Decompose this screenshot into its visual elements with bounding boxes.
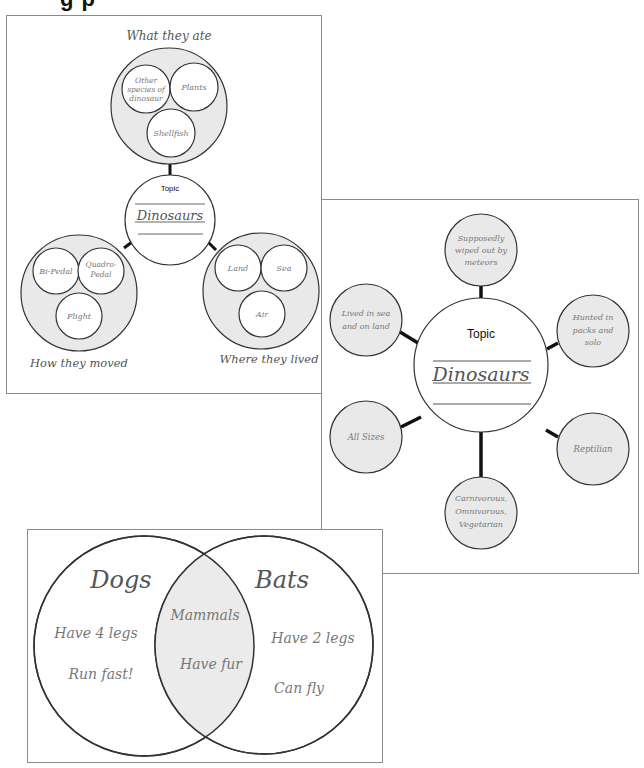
venn-overlap-item: Have fur — [179, 656, 243, 672]
venn-left-item: Run fast! — [68, 666, 134, 682]
venn-right-item: Have 2 legs — [270, 630, 354, 646]
venn-right-item: Can fly — [274, 680, 325, 696]
venn-right-title: Bats — [254, 566, 309, 594]
venn-left-title: Dogs — [89, 566, 151, 594]
venn-diagram: Dogs Have 4 legs Run fast! Bats Have 2 l… — [0, 0, 644, 768]
venn-left-item: Have 4 legs — [53, 625, 137, 641]
venn-overlap-item: Mammals — [169, 607, 239, 623]
